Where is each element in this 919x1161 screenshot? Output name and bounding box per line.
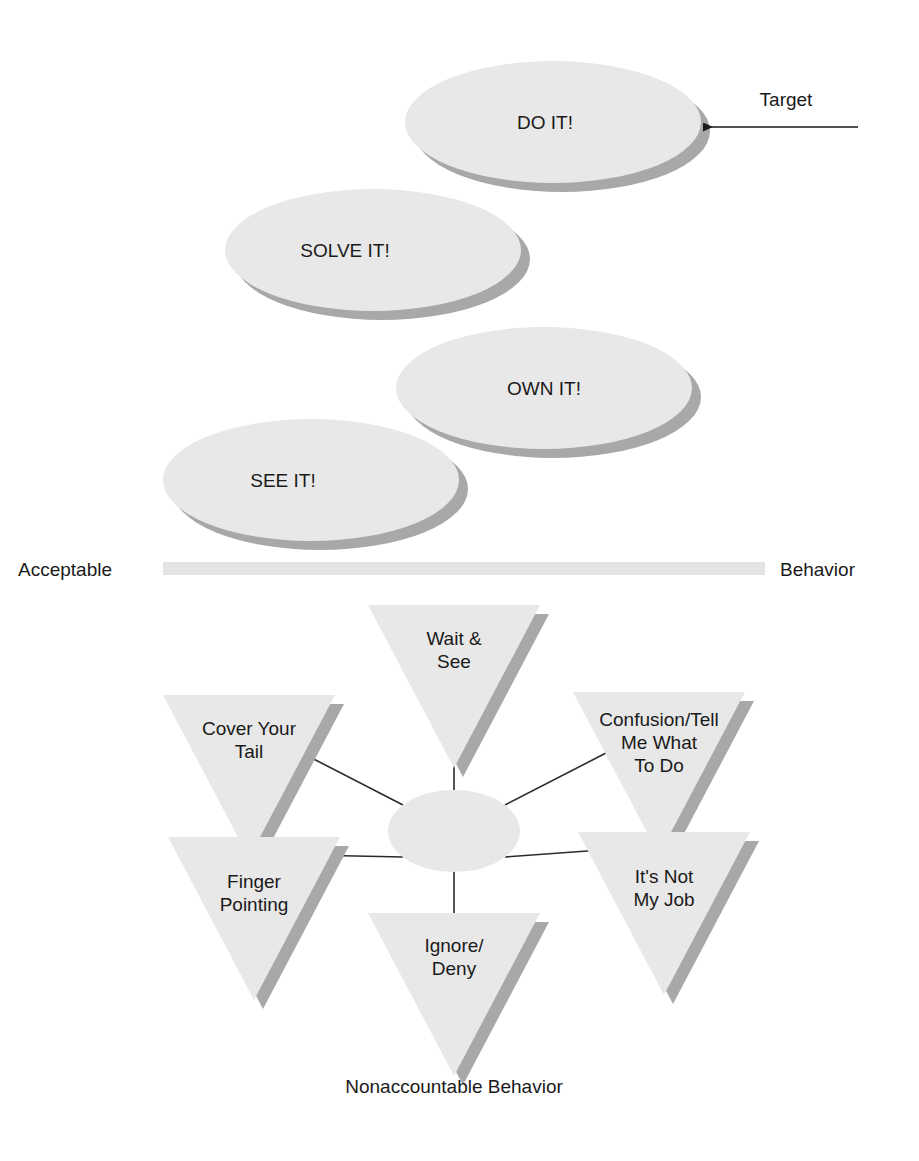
label-line: To Do bbox=[634, 755, 684, 776]
triangle-body[interactable] bbox=[578, 832, 750, 995]
accountable-step-do-it[interactable]: DO IT! bbox=[405, 61, 710, 192]
accountable-step-see-it[interactable]: SEE IT! bbox=[163, 419, 468, 550]
label-line: Ignore/ bbox=[424, 935, 484, 956]
label-line: Tail bbox=[235, 741, 264, 762]
accountability-diagram: SEE IT!OWN IT!SOLVE IT!DO IT! Acceptable… bbox=[0, 0, 919, 1161]
accountable-steps-group: SEE IT!OWN IT!SOLVE IT!DO IT! bbox=[163, 61, 710, 550]
nonaccountable-item-wait-and-see[interactable]: Wait &See bbox=[368, 605, 549, 777]
connector-hub-to-not-my-job bbox=[505, 850, 601, 857]
label-line: Finger bbox=[227, 871, 282, 892]
accountable-step-label: SEE IT! bbox=[250, 470, 315, 491]
center-hub-ellipse bbox=[388, 790, 520, 872]
accountable-step-label: SOLVE IT! bbox=[300, 240, 389, 261]
nonaccountable-item-finger-pointing[interactable]: FingerPointing bbox=[168, 837, 349, 1009]
accountable-step-label: OWN IT! bbox=[507, 378, 581, 399]
accountable-step-own-it[interactable]: OWN IT! bbox=[396, 327, 701, 458]
label-line: Confusion/Tell bbox=[599, 709, 718, 730]
diagram-canvas: SEE IT!OWN IT!SOLVE IT!DO IT! Acceptable… bbox=[0, 0, 919, 1161]
accountable-step-label: DO IT! bbox=[517, 112, 573, 133]
nonaccountable-item-its-not-my-job[interactable]: It's NotMy Job bbox=[578, 832, 759, 1004]
connector-hub-to-confusion bbox=[505, 753, 606, 805]
label-line: My Job bbox=[633, 889, 694, 910]
connector-hub-to-cover-tail bbox=[302, 753, 403, 805]
label-line: Me What bbox=[621, 732, 698, 753]
label-line: It's Not bbox=[635, 866, 694, 887]
nonaccountable-item-ignore-deny[interactable]: Ignore/Deny bbox=[368, 913, 549, 1085]
label-line: Deny bbox=[432, 958, 477, 979]
behavior-label: Behavior bbox=[780, 559, 856, 580]
label-line: Wait & bbox=[426, 628, 482, 649]
label-line: See bbox=[437, 651, 471, 672]
accountable-step-solve-it[interactable]: SOLVE IT! bbox=[225, 189, 530, 320]
label-line: Cover Your bbox=[202, 718, 297, 739]
nonaccountable-behavior-caption: Nonaccountable Behavior bbox=[345, 1076, 563, 1097]
triangle-body[interactable] bbox=[168, 837, 340, 1000]
acceptable-behavior-band bbox=[163, 562, 765, 575]
target-label: Target bbox=[760, 89, 814, 110]
acceptable-label: Acceptable bbox=[18, 559, 112, 580]
label-line: Pointing bbox=[220, 894, 289, 915]
